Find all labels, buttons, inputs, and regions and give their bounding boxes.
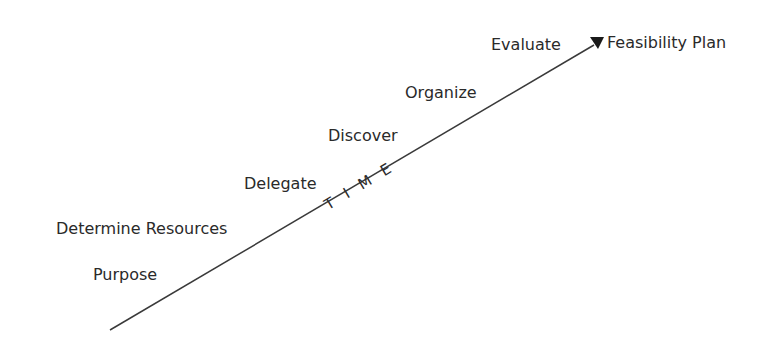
- step-evaluate: Evaluate: [491, 37, 561, 53]
- step-organize: Organize: [405, 85, 477, 101]
- arrowhead-icon: [590, 37, 604, 49]
- step-purpose: Purpose: [93, 267, 157, 283]
- step-discover: Discover: [328, 128, 398, 144]
- step-determine-resources: Determine Resources: [56, 221, 227, 237]
- step-delegate: Delegate: [244, 176, 317, 192]
- end-label-feasibility-plan: Feasibility Plan: [607, 35, 726, 51]
